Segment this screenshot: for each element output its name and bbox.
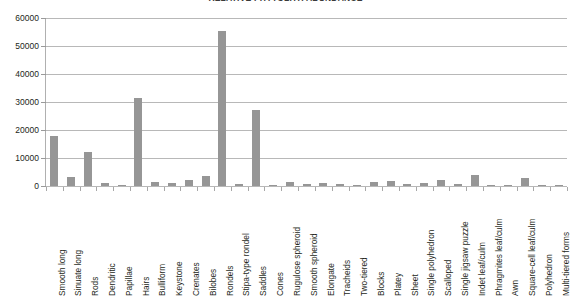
- x-axis-tick-mark: [281, 187, 282, 191]
- bar: [471, 175, 479, 186]
- bar: [84, 152, 92, 186]
- bar: [235, 184, 243, 186]
- x-axis-tick-label: Dendritic: [108, 263, 116, 296]
- x-axis-tick-label: Multi-tiered forms: [562, 232, 570, 296]
- bar: [101, 183, 109, 186]
- y-axis-tick-mark: [41, 102, 46, 103]
- x-axis-tick-mark: [517, 187, 518, 191]
- x-axis-tick-label: Polyhedron: [545, 254, 553, 296]
- x-axis-tick-label: Scalloped: [444, 260, 452, 296]
- x-axis-tick-label: Awn: [511, 280, 519, 296]
- bar: [420, 183, 428, 186]
- x-axis-tick-mark: [96, 187, 97, 191]
- plot-area: [46, 18, 567, 186]
- x-axis-tick-mark: [264, 187, 265, 191]
- x-axis-tick-label: Square-cell leaf/culm: [528, 219, 536, 296]
- x-axis-tick-label: Single jigsaw puzzle: [461, 221, 469, 296]
- x-axis-tick-label: Two-tiered: [360, 257, 368, 296]
- x-axis-tick-mark: [164, 187, 165, 191]
- y-axis-tick-label: 30000: [1, 98, 39, 107]
- bar-chart: RELATIVE PHYTOLITH ABUNDANCE 01000020000…: [0, 0, 571, 299]
- x-axis-tick-label: Sheet: [411, 274, 419, 296]
- bar: [538, 185, 546, 186]
- bar: [403, 184, 411, 186]
- bar: [202, 176, 210, 186]
- x-axis-tick-mark: [130, 187, 131, 191]
- y-axis-tick-label: 10000: [1, 154, 39, 163]
- x-axis-tick-mark: [466, 187, 467, 191]
- bar: [521, 178, 529, 186]
- x-axis-tick-label: Rondels: [226, 266, 234, 296]
- x-axis-tick-mark: [567, 187, 568, 191]
- gridline: [46, 46, 567, 47]
- x-axis-labels: Smooth longSinuate longRodsDendriticPapi…: [46, 192, 567, 299]
- x-axis-tick-mark: [63, 187, 64, 191]
- bar: [336, 184, 344, 186]
- y-axis-tick-mark: [41, 18, 46, 19]
- x-axis-tick-mark: [315, 187, 316, 191]
- x-axis-tick-mark: [449, 187, 450, 191]
- bar: [555, 185, 563, 186]
- x-axis-tick-mark: [399, 187, 400, 191]
- x-axis-tick-mark: [365, 187, 366, 191]
- x-axis-tick-mark: [349, 187, 350, 191]
- y-axis-tick-mark: [41, 130, 46, 131]
- x-axis-tick-mark: [382, 187, 383, 191]
- bar: [454, 184, 462, 186]
- x-axis-tick-label: Smooth spheroid: [310, 233, 318, 296]
- bar: [151, 182, 159, 186]
- x-axis-tick-mark: [80, 187, 81, 191]
- x-axis-tick-mark: [231, 187, 232, 191]
- x-axis-tick-label: Bilobes: [209, 269, 217, 296]
- x-axis-tick-label: Rods: [91, 277, 99, 296]
- y-axis-tick-label: 50000: [1, 42, 39, 51]
- bar: [185, 180, 193, 186]
- gridline: [46, 130, 567, 131]
- x-axis-tick-mark: [147, 187, 148, 191]
- y-axis-tick-label: 40000: [1, 70, 39, 79]
- bar: [286, 182, 294, 186]
- x-axis-tick-mark: [248, 187, 249, 191]
- x-axis-tick-label: Smooth long: [58, 249, 66, 296]
- x-axis-tick-label: Hairs: [142, 277, 150, 296]
- x-axis-tick-label: Bulliform: [158, 264, 166, 296]
- x-axis-tick-mark: [483, 187, 484, 191]
- bar: [319, 183, 327, 186]
- chart-title: RELATIVE PHYTOLITH ABUNDANCE: [0, 0, 571, 3]
- x-axis-tick-label: Blocks: [377, 272, 385, 296]
- x-axis-tick-label: Stipa-type rondel: [242, 233, 250, 296]
- gridline: [46, 158, 567, 159]
- x-axis-tick-mark: [332, 187, 333, 191]
- bar: [303, 184, 311, 186]
- bar: [252, 110, 260, 186]
- x-axis-tick-label: Rugulose spheroid: [293, 227, 301, 296]
- x-axis-tick-mark: [433, 187, 434, 191]
- x-axis-tick-mark: [197, 187, 198, 191]
- x-axis-tick-label: Crenates: [192, 262, 200, 296]
- x-axis-tick-mark: [550, 187, 551, 191]
- x-axis-tick-label: Keystone: [175, 261, 183, 296]
- y-axis-tick-label: 60000: [1, 14, 39, 23]
- x-axis-tick-mark: [113, 187, 114, 191]
- bar: [370, 182, 378, 186]
- x-axis-tick-mark: [533, 187, 534, 191]
- gridline: [46, 74, 567, 75]
- y-axis-tick-mark: [41, 74, 46, 75]
- x-axis-tick-label: Indet leaf/culm: [478, 242, 486, 296]
- x-axis-tick-label: Single polyhedron: [427, 230, 435, 296]
- gridline: [46, 18, 567, 19]
- x-axis-tick-label: Saddles: [259, 266, 267, 296]
- gridline: [46, 186, 567, 187]
- x-axis-tick-label: Phragmites leaf/culm: [495, 219, 503, 296]
- bar: [487, 185, 495, 186]
- x-axis-tick-label: Tracheids: [343, 260, 351, 296]
- bar: [269, 185, 277, 186]
- x-axis-tick-label: Platey: [394, 273, 402, 296]
- bar: [504, 185, 512, 186]
- x-axis-tick-label: Papillae: [125, 266, 133, 296]
- y-axis-labels: 0100002000030000400005000060000: [0, 0, 39, 299]
- bar: [134, 98, 142, 186]
- x-axis-tick-mark: [180, 187, 181, 191]
- bar: [437, 180, 445, 186]
- bar: [50, 136, 58, 186]
